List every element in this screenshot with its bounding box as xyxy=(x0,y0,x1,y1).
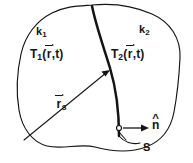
diagram-canvas xyxy=(0,0,193,163)
region2-temperature-label: T2(r,t) xyxy=(111,48,144,62)
normal-vector-symbol-group: ^n xyxy=(152,119,159,131)
normal-vector-arrowhead xyxy=(141,124,149,131)
region2-arg-rest: ,t) xyxy=(133,47,144,61)
region1-conductivity-label: k1 xyxy=(36,26,47,39)
normal-vector-arrow xyxy=(123,124,149,131)
region1-arg-rest: ,t) xyxy=(52,47,63,61)
position-vector-symbol-group: r xyxy=(56,98,62,110)
region2-position-vector-arg: r xyxy=(127,48,133,60)
surface-point-marker xyxy=(117,126,122,131)
position-vector-subscript: s xyxy=(62,102,67,112)
surface-leader-line xyxy=(119,136,140,144)
region2-conductivity-subscript: 2 xyxy=(145,28,149,37)
position-vector-arrow xyxy=(24,70,110,140)
region1-position-vector-arg: r xyxy=(46,48,52,60)
region1-conductivity-subscript: 1 xyxy=(42,30,46,39)
hat-accent-icon: ^ xyxy=(152,113,159,124)
region2-conductivity-label: k2 xyxy=(139,24,150,37)
region1-temperature-label: T1(r,t) xyxy=(30,48,63,62)
position-vector-label: rs xyxy=(56,98,66,112)
interface-diagram-figure: k1 T1(r,t) k2 T2(r,t) rs ^n S xyxy=(0,0,193,163)
surface-label: S xyxy=(143,142,150,153)
normal-vector-label: ^n xyxy=(152,119,159,131)
